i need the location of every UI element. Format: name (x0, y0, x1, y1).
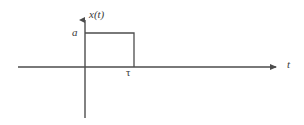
pulse-width-label: τ (126, 67, 130, 78)
horizontal-axis-label: t (287, 59, 290, 70)
waveform-plot-svg (0, 0, 304, 125)
waveform-figure: x(t) t a τ (0, 0, 304, 125)
pulse-waveform (85, 33, 134, 67)
amplitude-label: a (72, 27, 78, 38)
vertical-axis-label: x(t) (89, 9, 104, 20)
